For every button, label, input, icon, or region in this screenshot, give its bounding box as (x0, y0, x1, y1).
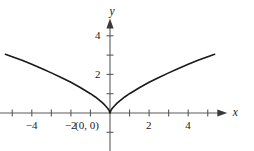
y-axis-name-label: y (110, 6, 115, 18)
x-axis-name-label: x (233, 107, 238, 119)
x-tick-label-neg4: −4 (26, 120, 38, 131)
x-axis-arrowhead (217, 109, 227, 116)
y-tick-label-pos4: 4 (95, 30, 101, 41)
x-tick-label-pos4: 4 (185, 120, 191, 131)
axes-group (0, 18, 227, 151)
y-axis-arrowhead (106, 18, 113, 28)
origin-point-label: (0, 0) (75, 120, 99, 131)
y-tick-label-pos2: 2 (95, 69, 101, 80)
graph-figure: −4 −2 2 4 2 4 (0, 0) x y (0, 0, 254, 151)
x-tick-label-pos2: 2 (146, 120, 152, 131)
plot-canvas (0, 0, 254, 151)
